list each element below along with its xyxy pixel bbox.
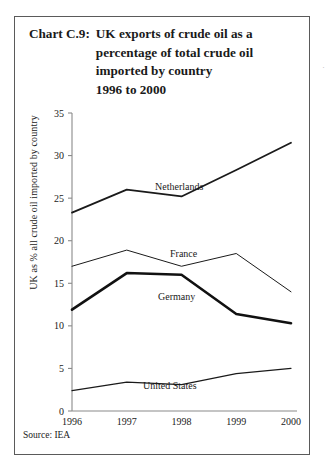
y-axis-tick-label: 5 xyxy=(59,363,64,374)
plot-area-wrapper: UK as % all crude oil imported by countr… xyxy=(15,17,311,456)
series-labels-group: NetherlandsFranceGermanyUnited States xyxy=(143,181,203,391)
x-axis-tick-label: 2000 xyxy=(281,416,301,427)
series-label-germany: Germany xyxy=(158,291,195,302)
series-line-netherlands xyxy=(72,143,291,213)
y-axis-tick-label: 0 xyxy=(59,406,64,417)
x-axis-tick-label: 1997 xyxy=(117,416,137,427)
series-label-france: France xyxy=(170,248,198,259)
figure-frame: Chart C.9: UK exports of crude oil as a … xyxy=(14,16,310,455)
x-axis-tick-label: 1999 xyxy=(226,416,246,427)
y-axis-tick-label: 30 xyxy=(54,150,64,161)
y-axis-tick-label: 15 xyxy=(54,278,64,289)
line-chart-svg: 0510152025303519961997199819992000 Nethe… xyxy=(15,17,311,456)
x-axis-tick-label: 1998 xyxy=(172,416,192,427)
source-note: Source: IEA xyxy=(23,429,70,441)
series-label-united-states: United States xyxy=(143,380,197,391)
y-axis-tick-label: 35 xyxy=(54,108,64,119)
series-lines-group xyxy=(72,143,291,391)
y-axis-tick-label: 10 xyxy=(54,320,64,331)
chart-page: · Chart C.9: UK exports of crude oil as … xyxy=(0,0,333,467)
y-axis-tick-label: 20 xyxy=(54,235,64,246)
x-axis-tick-label: 1996 xyxy=(62,416,82,427)
page-edge-artifact: · xyxy=(322,62,328,72)
series-label-netherlands: Netherlands xyxy=(155,181,203,192)
y-axis-tick-label: 25 xyxy=(54,193,64,204)
